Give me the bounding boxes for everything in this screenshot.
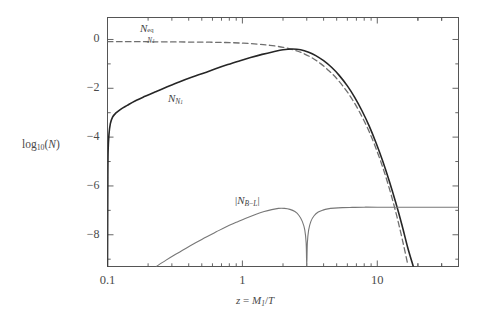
x-tick-label: 1	[217, 273, 267, 288]
x-tick-label: 0.1	[83, 273, 133, 288]
series-line	[156, 207, 458, 266]
y-tick-label: −4	[66, 129, 100, 144]
y-tick-label: −6	[66, 178, 100, 193]
axes-frame	[108, 18, 459, 267]
y-axis-label: log10(N)	[22, 138, 60, 152]
n-eq-curve-label: NeqN1	[140, 22, 158, 34]
plot-canvas	[0, 0, 489, 314]
figure-container: log10(N) z = M1/T NeqN1 NN1 |NB−L| 0−2−4…	[0, 0, 489, 314]
n-bl-curve-label: |NB−L|	[235, 194, 260, 208]
x-tick-label: 10	[352, 273, 402, 288]
y-tick-label: −8	[66, 227, 100, 242]
data-series	[108, 42, 459, 267]
y-tick-label: −2	[66, 80, 100, 95]
x-axis-label: z = M1/T	[236, 294, 274, 308]
n-n1-curve-label: NN1	[168, 92, 183, 106]
series-line	[108, 42, 408, 264]
y-tick-label: 0	[66, 31, 100, 46]
series-line	[108, 49, 414, 267]
axis-ticks	[108, 18, 459, 267]
